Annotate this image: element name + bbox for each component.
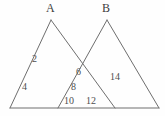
diagram-canvas: A B 2 4 6 8 10 12 14 xyxy=(0,0,165,116)
angle-label-10: 10 xyxy=(64,96,74,106)
angle-label-14: 14 xyxy=(110,72,120,82)
angle-label-6: 6 xyxy=(76,67,81,77)
angle-label-8: 8 xyxy=(71,82,76,92)
triangles-figure xyxy=(0,0,165,116)
angle-label-4: 4 xyxy=(22,82,27,92)
vertex-label-a: A xyxy=(46,2,55,14)
angle-label-12: 12 xyxy=(86,96,96,106)
triangle-b-right-leg xyxy=(107,20,159,108)
vertex-label-b: B xyxy=(102,2,110,14)
angle-label-2: 2 xyxy=(32,54,37,64)
triangle-a-left-leg xyxy=(10,20,51,108)
